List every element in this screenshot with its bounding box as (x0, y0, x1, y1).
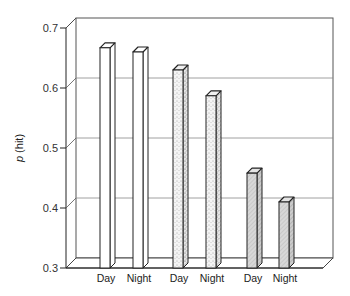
bar-side-face (143, 47, 148, 268)
x-tick-label: Night (127, 272, 152, 284)
y-tick-label: 0.4 (43, 202, 58, 214)
bar-chart: 0.30.40.50.60.7 DayNightDayNightDayNight… (0, 0, 350, 296)
y-axis-label-text: (hit) (13, 134, 25, 156)
x-tick-label: Night (273, 272, 298, 284)
y-tick-label: 0.6 (43, 82, 58, 94)
bar-front-face (279, 202, 289, 268)
x-axis-labels: DayNightDayNightDayNight (97, 272, 298, 284)
bar-front-face (247, 173, 257, 268)
side-gridline (66, 198, 76, 208)
bar-side-face (110, 43, 115, 268)
bar-side-face (257, 168, 262, 268)
bar-6 (279, 197, 294, 268)
bar-front-face (133, 52, 143, 268)
y-tick-label: 0.7 (43, 22, 58, 34)
bar-3 (173, 65, 188, 268)
side-gridline (66, 78, 76, 88)
bar-front-face (100, 48, 110, 268)
bar-side-face (289, 197, 294, 268)
y-axis-label: p (hit) (13, 134, 25, 163)
side-gridline (66, 18, 76, 28)
bar-side-face (216, 91, 221, 268)
bar-5 (247, 168, 262, 268)
bar-4 (206, 91, 221, 268)
bar-front-face (206, 96, 216, 268)
x-tick-label: Day (170, 272, 189, 284)
y-axis: 0.30.40.50.60.7 (43, 22, 66, 274)
bar-2 (133, 47, 148, 268)
x-tick-label: Day (97, 272, 116, 284)
side-gridline (66, 138, 76, 148)
y-tick-label: 0.3 (43, 262, 58, 274)
x-tick-label: Night (200, 272, 225, 284)
bar-side-face (183, 65, 188, 268)
bar-1 (100, 43, 115, 268)
bar-front-face (173, 70, 183, 268)
y-tick-label: 0.5 (43, 142, 58, 154)
y-axis-label-symbol: p (13, 156, 25, 163)
x-tick-label: Day (244, 272, 263, 284)
